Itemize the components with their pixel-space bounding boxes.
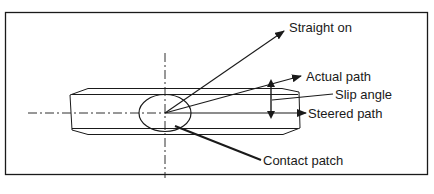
centre-lines bbox=[28, 53, 165, 178]
label-slip-angle: Slip angle bbox=[335, 88, 392, 101]
contact-patch-leader bbox=[175, 126, 261, 160]
label-steered-path: Steered path bbox=[308, 107, 382, 120]
label-contact-patch: Contact patch bbox=[263, 154, 343, 167]
tyre-outline bbox=[70, 89, 300, 135]
straight-on-arrow bbox=[165, 31, 284, 113]
label-actual-path: Actual path bbox=[306, 70, 371, 83]
label-straight-on: Straight on bbox=[289, 21, 352, 34]
